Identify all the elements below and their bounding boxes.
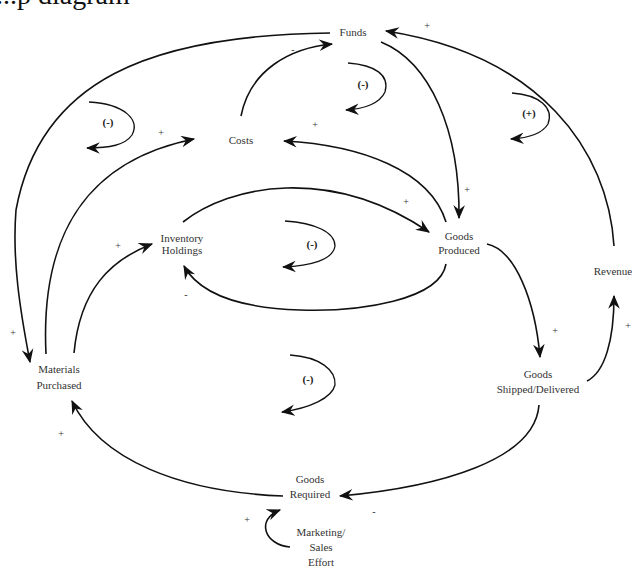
edge-shipped-revenue (587, 296, 614, 381)
svg-text:Inventory: Inventory (161, 232, 204, 244)
svg-text:Marketing/: Marketing/ (297, 526, 347, 538)
svg-text:Funds: Funds (340, 26, 367, 38)
edge-materials-inventory (74, 244, 152, 353)
svg-text:Effort: Effort (308, 556, 334, 568)
loop-label-center: (-) (307, 238, 318, 251)
sign-marketing-required: + (244, 514, 250, 525)
edge-inventory-goods-produced (183, 188, 429, 232)
svg-text:Produced: Produced (438, 244, 480, 256)
edge-required-materials (72, 401, 283, 496)
sign-funds-goods: + (464, 184, 470, 195)
sign-costs-funds: - (291, 44, 294, 55)
sign-goods-inventory: - (184, 289, 187, 300)
node-materials-purchased: Materials Purchased (36, 363, 82, 391)
svg-text:Purchased: Purchased (36, 379, 82, 391)
svg-text:Revenue: Revenue (594, 265, 633, 277)
edge-goods-produced-inventory (184, 264, 446, 310)
edge-goods-costs (284, 141, 446, 222)
svg-text:Goods: Goods (524, 368, 553, 380)
sign-materials-inventory: + (115, 240, 121, 251)
svg-text:Required: Required (290, 488, 331, 500)
edge-goods-produced-shipped (487, 244, 540, 357)
node-costs: Costs (229, 134, 253, 146)
svg-text:Goods: Goods (296, 473, 325, 485)
title-fragment: ...p diagram (0, 0, 130, 10)
sign-shipped-required: - (372, 506, 375, 517)
svg-text:Materials: Materials (38, 363, 80, 375)
sign-inventory-goods: + (403, 196, 409, 207)
node-marketing-sales-effort: Marketing/ Sales Effort (297, 526, 347, 568)
svg-text:...p diagram: ...p diagram (0, 0, 130, 10)
loop-label-top-center: (-) (358, 78, 369, 91)
svg-text:Holdings: Holdings (162, 244, 202, 256)
svg-text:Sales: Sales (309, 541, 332, 553)
node-inventory-holdings: Inventory Holdings (161, 232, 204, 256)
svg-text:Costs: Costs (229, 134, 253, 146)
loop-label-bottom: (-) (303, 373, 314, 386)
sign-goods-shipped: + (552, 325, 558, 336)
edge-marketing-required (266, 510, 290, 547)
sign-revenue-funds: + (424, 20, 430, 31)
loop-label-top-left: (-) (103, 116, 114, 129)
sign-goods-costs: + (312, 119, 318, 130)
sign-materials-costs: + (158, 127, 164, 138)
node-goods-shipped-delivered: Goods Shipped/Delivered (497, 368, 580, 395)
causal-loop-diagram: ...p diagram Funds Costs Inventory Holdi… (0, 0, 641, 574)
edge-funds-materials (15, 33, 330, 362)
node-goods-required: Goods Required (290, 473, 331, 500)
sign-funds-materials: + (10, 327, 16, 338)
edge-revenue-funds (386, 31, 614, 246)
edge-costs-funds (241, 44, 332, 116)
edge-shipped-required (340, 405, 539, 496)
node-revenue: Revenue (594, 265, 633, 277)
node-goods-produced: Goods Produced (438, 230, 480, 256)
svg-text:Goods: Goods (445, 230, 474, 242)
loop-label-top-right: (+) (522, 107, 536, 120)
sign-shipped-revenue: + (625, 320, 631, 331)
node-funds: Funds (340, 26, 367, 38)
edge-funds-goods-produced (381, 42, 459, 218)
svg-text:Shipped/Delivered: Shipped/Delivered (497, 383, 580, 395)
sign-required-materials: + (58, 428, 64, 439)
